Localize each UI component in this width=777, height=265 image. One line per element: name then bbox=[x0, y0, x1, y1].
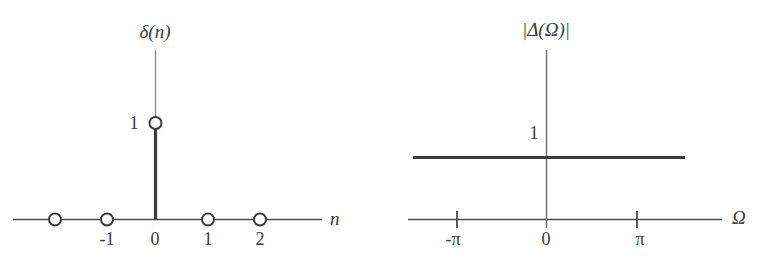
x-tick-label-0: 0 bbox=[542, 230, 551, 248]
chart-panel-impulse-frequency: |Δ(Ω)| 1 -π 0 π Ω bbox=[388, 0, 777, 265]
x-axis-name-omega: Ω bbox=[732, 208, 746, 227]
figure-container: δ(n) 1 -1 0 1 2 n |Δ(Ω)| 1 -π 0 π bbox=[0, 0, 777, 265]
amplitude-label-one: 1 bbox=[530, 124, 539, 142]
amplitude-label-one: 1 bbox=[130, 114, 139, 132]
x-tick-label-1: 1 bbox=[204, 230, 213, 248]
x-axis-name-n: n bbox=[330, 209, 340, 228]
x-tick-label-minus-1: -1 bbox=[100, 230, 115, 248]
x-tick-label-2: 2 bbox=[256, 230, 265, 248]
x-tick-label-minus-pi: -π bbox=[445, 230, 460, 248]
marker-n-1 bbox=[202, 214, 214, 226]
marker-n-minus-1 bbox=[101, 214, 113, 226]
x-tick-label-pi: π bbox=[635, 230, 644, 248]
impulse-frequency-svg bbox=[388, 0, 777, 265]
x-tick-label-0: 0 bbox=[151, 230, 160, 248]
marker-n-0 bbox=[150, 117, 162, 129]
chart-panel-impulse-time: δ(n) 1 -1 0 1 2 n bbox=[0, 0, 388, 265]
y-axis-title-delta-n: δ(n) bbox=[140, 22, 171, 41]
marker-n-2 bbox=[254, 214, 266, 226]
y-axis-title-magnitude-delta-omega: |Δ(Ω)| bbox=[522, 20, 570, 39]
marker-n-minus-2 bbox=[49, 214, 61, 226]
